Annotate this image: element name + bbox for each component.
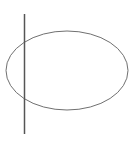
- diagram-canvas: [0, 0, 136, 148]
- diagram-svg: [0, 0, 136, 148]
